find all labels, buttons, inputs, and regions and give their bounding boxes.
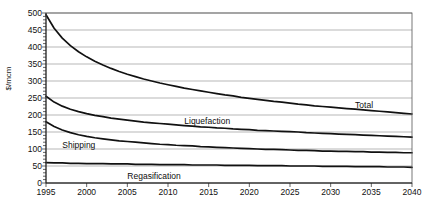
- gridlines: [46, 13, 412, 183]
- series-label-liquefaction: Liquefaction: [184, 116, 230, 126]
- x-tick-label: 2015: [189, 187, 229, 197]
- series-label-regasification: Regasification: [127, 171, 180, 181]
- x-tick-label: 2035: [351, 187, 391, 197]
- x-tick-label: 2020: [229, 187, 269, 197]
- x-tick-label: 2025: [270, 187, 310, 197]
- series-line-shipping: [46, 122, 412, 153]
- x-tick-label: 2040: [392, 187, 431, 197]
- x-tick-label: 2030: [311, 187, 351, 197]
- x-tick-label: 2000: [67, 187, 107, 197]
- series-label-shipping: Shipping: [62, 140, 95, 150]
- y-tick-marks: [42, 13, 46, 183]
- series-lines: [46, 15, 412, 168]
- x-tick-label: 2005: [107, 187, 147, 197]
- x-tick-label: 1995: [26, 187, 66, 197]
- lng-cost-chart: $/mcm 050100150200250300350400450500 199…: [0, 0, 431, 209]
- series-label-total: Total: [355, 100, 373, 110]
- series-line-regasification: [46, 163, 412, 168]
- x-tick-label: 2010: [148, 187, 188, 197]
